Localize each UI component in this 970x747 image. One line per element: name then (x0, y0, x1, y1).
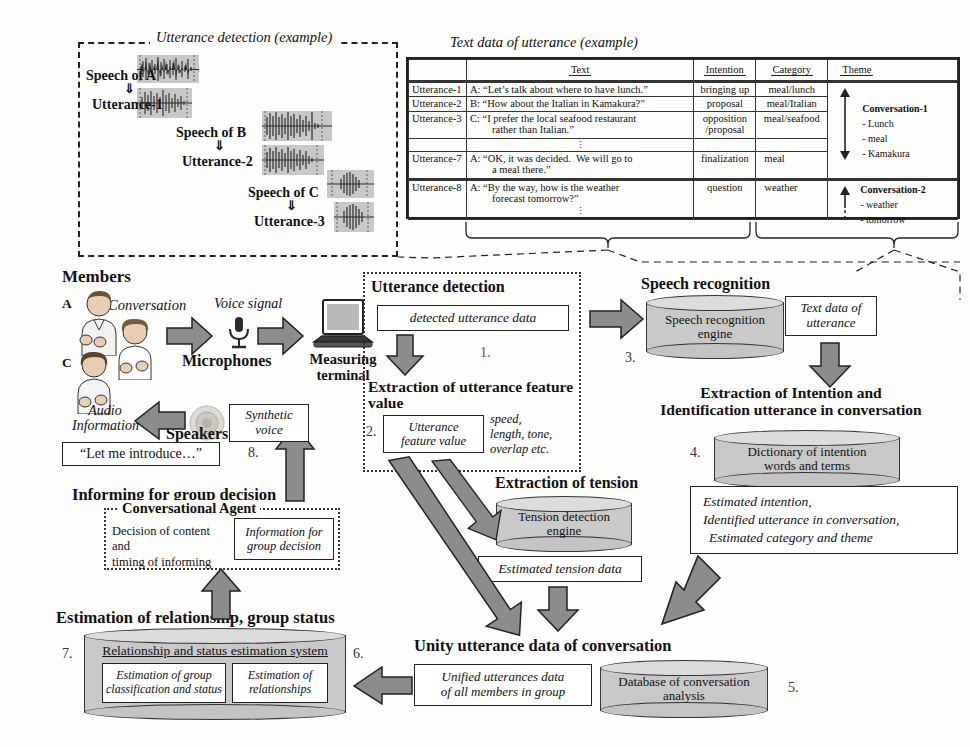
cell-id: Utterance-8 (409, 180, 467, 220)
unity-utterance-title: Unity utterance data of conversation (414, 636, 672, 656)
conversational-agent-label: Conversational Agent (118, 500, 260, 517)
cell-id: Utterance-2 (409, 97, 467, 112)
arrow-text-data-to-intention (808, 342, 852, 388)
text-data-table-wrapper: Text Intention Category Theme Utterance-… (406, 57, 960, 219)
detected-utterance-data-box: detected utterance data (377, 305, 569, 331)
theme-item: - meal (862, 133, 928, 144)
table-row: Utterance-8 A: “By the way, how is the w… (409, 180, 958, 220)
cell-intention: finalization (694, 152, 756, 180)
arrow-to-speech-recognition (589, 298, 645, 340)
cell-id: Utterance-7 (409, 152, 467, 180)
up-arrow-dashed-icon (838, 186, 852, 220)
cell-ellipsis: ⋮ (470, 206, 690, 216)
cell-id (409, 139, 467, 152)
diagram-canvas: Utterance detection (example) (0, 0, 970, 747)
utterance-feature-value-box: Utterancefeature value (383, 415, 484, 453)
text-data-table: Text Intention Category Theme Utterance-… (408, 59, 958, 220)
step-1-label: 1. (480, 345, 491, 361)
utterance-2-label: Utterance-2 (182, 154, 253, 170)
estimation-relationships-box: Estimation ofrelationships (232, 663, 328, 703)
th-category: Category (756, 60, 828, 82)
database-of-conversation-cylinder: Database of conversationanalysis (600, 660, 768, 718)
step-7-label: 7. (62, 646, 73, 662)
synthetic-voice-box: Syntheticvoice (229, 404, 309, 442)
double-arrow-icon (838, 87, 852, 161)
step-2-label: 2. (366, 424, 377, 440)
cell-text-line2: rather than Italian.” (492, 124, 574, 135)
estimated-intention-line-2: Identified utterance in conversation, (703, 512, 899, 527)
waveform-utterance-2 (262, 145, 324, 175)
speech-of-c-label: Speech of C (248, 185, 319, 201)
cell-category: weather (756, 180, 828, 220)
cell-text: C: “I prefer the local seafood restauran… (466, 112, 693, 139)
cell-id: Utterance-1 (409, 82, 467, 97)
microphone-icon (226, 315, 252, 355)
cell-text-line1: C: “I prefer the local seafood restauran… (470, 113, 636, 124)
voice-signal-label: Voice signal (214, 296, 282, 312)
arrow-down-c: ⇓ (286, 198, 297, 214)
step-4-label: 4. (690, 445, 701, 461)
cell-category: meal (756, 152, 828, 180)
cell-intention: opposition/proposal (694, 112, 756, 139)
theme-item: - tomorrow (860, 214, 926, 225)
estimated-intention-line-3: Estimated category and theme (709, 529, 873, 547)
members-label: Members (62, 267, 131, 287)
cell-intention: question (694, 180, 756, 220)
theme-item: - Kamakura (862, 148, 928, 159)
text-data-of-utterance-box: Text data ofutterance (785, 296, 877, 336)
estimation-group-class-box: Estimation of groupclassification and st… (102, 663, 226, 703)
dictionary-of-intention-cylinder: Dictionary of intentionwords and terms (714, 430, 900, 488)
arrow-microphones-to-terminal (257, 316, 305, 356)
arrow-down-b: ⇓ (214, 138, 225, 154)
audio-information-label: AudioInformation (72, 403, 138, 434)
cell-ellipsis: ⋮ (466, 139, 693, 152)
cell-category: meal/Italian (756, 97, 828, 112)
theme-name: Conversation-2 (860, 184, 926, 195)
utterance-3-label: Utterance-3 (254, 214, 325, 230)
tension-detection-engine-cylinder: Tension detectionengine (496, 496, 632, 552)
cell-intention: proposal (694, 97, 756, 112)
information-for-group-decision-box: Information forgroup decision (234, 518, 334, 560)
let-me-introduce-box: “Let me introduce…” (62, 442, 220, 466)
step-6-label: 6. (353, 646, 364, 662)
arrow-detected-to-extraction (385, 334, 425, 376)
cell-text: A: “Let’s talk about where to have lunch… (466, 82, 693, 97)
cell-category: meal/lunch (756, 82, 828, 97)
arrow-unified-to-relationship (352, 666, 414, 706)
step-8-label: 8. (248, 445, 259, 461)
table-row: Utterance-1 A: “Let’s talk about where t… (409, 82, 958, 97)
cell-text-line2: a meal there.” (492, 164, 551, 175)
speech-recognition-title: Speech recognition (641, 275, 770, 293)
cell-intention (694, 139, 756, 152)
speech-of-b-label: Speech of B (176, 125, 246, 141)
cell-text-line1: A: “OK, it was decided. We will go to (470, 153, 633, 164)
waveform-utterance-3 (334, 202, 374, 232)
step-3-label: 3. (625, 350, 636, 366)
member-a-label: A (62, 296, 72, 312)
step-5-label: 5. (788, 680, 799, 696)
relationship-system-cylinder: Relationship and status estimation syste… (84, 628, 346, 720)
cell-category (756, 139, 828, 152)
text-data-example-title: Text data of utterance (example) (450, 34, 638, 51)
th-intention: Intention (694, 60, 756, 82)
utterance-detection-example-title: Utterance detection (example) (150, 29, 338, 46)
arrow-relationship-to-agent (200, 568, 242, 620)
utterance-detection-title: Utterance detection (371, 278, 505, 296)
estimated-intention-box: Estimated intention, Identified utteranc… (690, 486, 958, 554)
cell-text: A: “OK, it was decided. We will go to a … (466, 152, 693, 180)
table-header-row: Text Intention Category Theme (409, 60, 958, 82)
estimated-intention-line-1: Estimated intention, (703, 494, 812, 509)
unified-utterances-data-box: Unified utterances dataof all members in… (414, 664, 592, 706)
cell-text-line1: A: “By the way, how is the weather (470, 182, 619, 193)
speech-of-a-label: Speech of A (86, 68, 156, 84)
estimation-relationship-title: Estimation of relationship, group status (56, 608, 335, 628)
th-text: Text (466, 60, 693, 82)
utterance-1-label: Utterance-1 (92, 97, 163, 113)
speech-recognition-engine-cylinder: Speech recognitionengine (646, 295, 784, 359)
arrow-down-a: ⇓ (124, 81, 135, 97)
arrow-feature-to-unity (370, 455, 550, 655)
cell-intention: bringing up (694, 82, 756, 97)
waveform-speech-b (262, 111, 332, 141)
relationship-system-label: Relationship and status estimation syste… (84, 644, 346, 659)
extraction-feature-title: Extraction of utterance feature value (368, 379, 580, 412)
